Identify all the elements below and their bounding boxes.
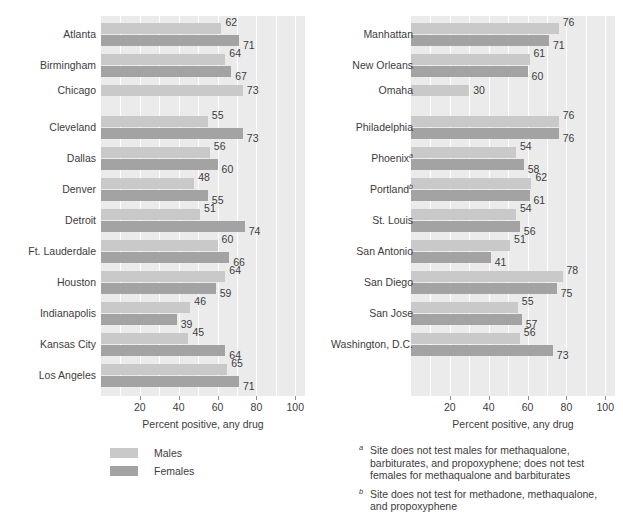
bar-value-females: 60 bbox=[222, 164, 234, 175]
x-axis-tick bbox=[140, 396, 141, 400]
bar-males bbox=[411, 147, 516, 158]
category-label: Houston bbox=[0, 277, 96, 288]
x-axis-tick-label: 20 bbox=[134, 401, 146, 413]
bar-females bbox=[101, 35, 239, 46]
gridline bbox=[566, 16, 567, 396]
bar-males bbox=[101, 116, 208, 127]
bar-females bbox=[411, 190, 530, 201]
bar-females bbox=[411, 128, 559, 139]
legend-item-females: Females bbox=[110, 462, 194, 480]
x-axis-tick-label: 40 bbox=[173, 401, 185, 413]
x-axis-tick-label: 40 bbox=[483, 401, 495, 413]
gridline bbox=[605, 16, 606, 396]
category-label: New Orleans bbox=[317, 60, 413, 71]
category-label: Detroit bbox=[0, 215, 96, 226]
bar-males bbox=[101, 23, 221, 34]
bar-value-males: 46 bbox=[194, 296, 206, 307]
category-label: Indianapolis bbox=[0, 308, 96, 319]
bar-value-males: 55 bbox=[212, 110, 224, 121]
bar-females bbox=[101, 314, 177, 325]
category-label: Philadelphia bbox=[317, 122, 413, 133]
bar-males bbox=[411, 54, 530, 65]
bar-females bbox=[411, 345, 553, 356]
bar-males bbox=[101, 271, 225, 282]
bar-males bbox=[411, 302, 518, 313]
x-axis-tick-label: 60 bbox=[522, 401, 534, 413]
bar-females bbox=[411, 159, 524, 170]
bar-males bbox=[411, 178, 531, 189]
category-label: Ft. Lauderdale bbox=[0, 246, 96, 257]
bar-value-males: 56 bbox=[214, 141, 226, 152]
bar-value-females: 75 bbox=[561, 288, 573, 299]
bar-females bbox=[411, 283, 557, 294]
footnote-text-b: Site does not test for methadone, methaq… bbox=[370, 488, 597, 513]
bar-value-females: 71 bbox=[553, 40, 565, 51]
x-axis-tick-label: 20 bbox=[444, 401, 456, 413]
bar-value-males: 54 bbox=[520, 203, 532, 214]
category-label: St. Louis bbox=[317, 215, 413, 226]
category-label: Manhattan bbox=[317, 29, 413, 40]
footnote-text-a: Site does not test males for methaqualon… bbox=[370, 444, 584, 481]
bar-females bbox=[101, 66, 231, 77]
x-axis-tick-label: 60 bbox=[212, 401, 224, 413]
legend-swatch-females bbox=[110, 466, 138, 476]
x-axis-tick-label: 100 bbox=[287, 401, 305, 413]
bar-males bbox=[101, 209, 200, 220]
bar-value-females: 67 bbox=[235, 71, 247, 82]
bar-value-males: 64 bbox=[229, 48, 241, 59]
x-axis-right: 20406080100 bbox=[411, 396, 615, 418]
bar-value-females: 61 bbox=[534, 195, 546, 206]
x-axis-tick-label: 80 bbox=[561, 401, 573, 413]
x-axis-tick bbox=[450, 396, 451, 400]
bar-value-males: 62 bbox=[225, 17, 237, 28]
bar-females bbox=[411, 314, 522, 325]
bar-value-females: 39 bbox=[181, 319, 193, 330]
bar-value-males: 45 bbox=[192, 327, 204, 338]
gridline bbox=[295, 16, 296, 396]
category-footnote-marker: a bbox=[409, 152, 413, 159]
x-axis-tick-label: 100 bbox=[597, 401, 615, 413]
bar-value-females: 71 bbox=[243, 381, 255, 392]
bar-males bbox=[101, 240, 218, 251]
gridline bbox=[276, 16, 277, 396]
bar-value-males: 48 bbox=[198, 172, 210, 183]
bar-value-males: 73 bbox=[247, 85, 259, 96]
bar-value-males: 65 bbox=[231, 358, 243, 369]
bar-males bbox=[411, 333, 520, 344]
x-axis-left: 20406080100 bbox=[101, 396, 305, 418]
bar-value-females: 71 bbox=[243, 40, 255, 51]
category-label: Birmingham bbox=[0, 60, 96, 71]
bar-females bbox=[101, 190, 208, 201]
footnote-marker-a: a bbox=[359, 442, 363, 455]
bar-value-males: 62 bbox=[535, 172, 547, 183]
category-label: San Jose bbox=[317, 308, 413, 319]
x-axis-tick bbox=[566, 396, 567, 400]
bar-males bbox=[101, 147, 210, 158]
bar-value-females: 60 bbox=[532, 71, 544, 82]
category-label: Chicago bbox=[0, 85, 96, 96]
bar-value-males: 54 bbox=[520, 141, 532, 152]
bar-males bbox=[411, 85, 469, 96]
bar-females bbox=[411, 252, 491, 263]
category-label: Atlanta bbox=[0, 29, 96, 40]
bar-females bbox=[101, 345, 225, 356]
bar-value-females: 41 bbox=[495, 257, 507, 268]
bar-males bbox=[101, 333, 188, 344]
bar-value-males: 30 bbox=[473, 85, 485, 96]
x-axis-tick bbox=[179, 396, 180, 400]
gridline bbox=[586, 16, 587, 396]
category-label: San Antonio bbox=[317, 246, 413, 257]
category-label: Los Angeles bbox=[0, 370, 96, 381]
category-axis-left: AtlantaBirminghamChicagoClevelandDallasD… bbox=[0, 16, 96, 396]
bar-males bbox=[411, 23, 559, 34]
legend-label-females: Females bbox=[154, 465, 194, 477]
bar-females bbox=[101, 376, 239, 387]
category-label: Denver bbox=[0, 184, 96, 195]
footnote-a: a Site does not test males for methaqual… bbox=[359, 444, 615, 482]
gridline bbox=[547, 16, 548, 396]
bar-value-males: 76 bbox=[563, 17, 575, 28]
chart-panel-left: 6271646773557356604855517460666459463945… bbox=[0, 0, 311, 440]
bar-females bbox=[101, 283, 216, 294]
x-axis-tick bbox=[489, 396, 490, 400]
plot-area-left: 6271646773557356604855517460666459463945… bbox=[101, 16, 305, 396]
